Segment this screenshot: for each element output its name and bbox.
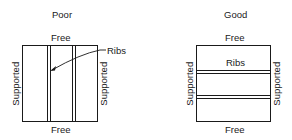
edge-label-bottom-free: Free xyxy=(225,125,245,135)
edge-label-top-free: Free xyxy=(225,33,245,43)
edge-label-right-supported: Supported xyxy=(272,62,282,106)
rib-horizontal-2 xyxy=(197,95,270,99)
edge-label-left-supported: Supported xyxy=(185,62,195,106)
rib-label-inline: Ribs xyxy=(226,58,245,68)
rib-horizontal-1 xyxy=(197,70,270,74)
plate-good: Ribs xyxy=(196,45,271,122)
panel-title-good: Good xyxy=(224,10,247,20)
